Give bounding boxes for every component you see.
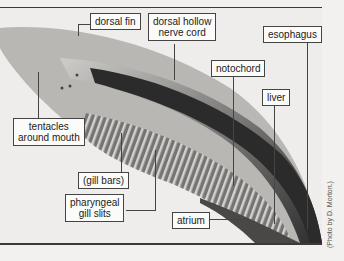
lancelet-figure: dorsal fin dorsal hollow nerve cord esop… xyxy=(0,0,344,261)
leader-esophagus xyxy=(307,39,308,229)
label-dorsal-fin: dorsal fin xyxy=(90,13,141,30)
label-atrium: atrium xyxy=(172,212,210,229)
label-gill-bars: (gill bars) xyxy=(78,172,129,189)
label-notochord: notochord xyxy=(211,60,265,77)
leader-notochord xyxy=(233,76,234,186)
leader-gill-slits xyxy=(155,150,156,211)
label-liver: liver xyxy=(262,89,290,106)
label-tentacles-around-mouth: tentacles around mouth xyxy=(13,118,85,146)
leader-gill-slits-h xyxy=(126,210,156,211)
photo-credit: (Photo by D. Morton.) xyxy=(326,181,333,248)
label-esophagus: esophagus xyxy=(263,26,322,43)
leader-gill-bars xyxy=(121,133,122,173)
label-pharyngeal-gill-slits: pharyngeal gill slits xyxy=(65,194,124,222)
leader-tentacles xyxy=(38,72,39,118)
label-dorsal-hollow-nerve-cord: dorsal hollow nerve cord xyxy=(148,13,216,41)
leader-nerve-cord xyxy=(174,44,175,80)
leader-dorsal-fin-h xyxy=(78,24,90,25)
leader-dorsal-fin xyxy=(78,24,79,36)
leader-liver xyxy=(274,104,275,224)
bottom-rule xyxy=(0,243,322,245)
leader-atrium xyxy=(207,219,249,220)
